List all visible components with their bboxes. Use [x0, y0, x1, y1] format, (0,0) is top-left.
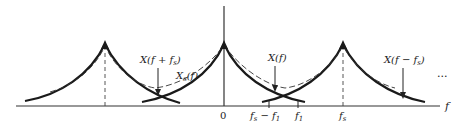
- tick-label-zero: 0: [220, 110, 226, 121]
- tick-label-fs-minus-f1: fs − f1: [249, 110, 280, 123]
- label-x-f-plus-fs: X(f + fs): [139, 54, 181, 67]
- label-x-f-minus-fs: X(f − fs): [383, 54, 425, 67]
- ellipsis-continuation: ...: [437, 67, 448, 80]
- diagram-canvas: X(f + fs) Xs(f) X(f) X(f − fs) ... 0 fs …: [0, 0, 470, 127]
- axis-label-f: f: [444, 100, 451, 113]
- peak-marker-right: [339, 40, 347, 49]
- label-x-f: X(f): [267, 52, 287, 63]
- tick-label-fs: fs: [338, 110, 347, 123]
- aliasing-diagram: X(f + fs) Xs(f) X(f) X(f − fs) ... 0 fs …: [0, 0, 470, 127]
- peak-marker-left: [101, 40, 109, 49]
- peak-marker-center: [220, 40, 228, 49]
- tick-label-f1: f1: [294, 110, 303, 123]
- replica-curve-left: [25, 44, 180, 103]
